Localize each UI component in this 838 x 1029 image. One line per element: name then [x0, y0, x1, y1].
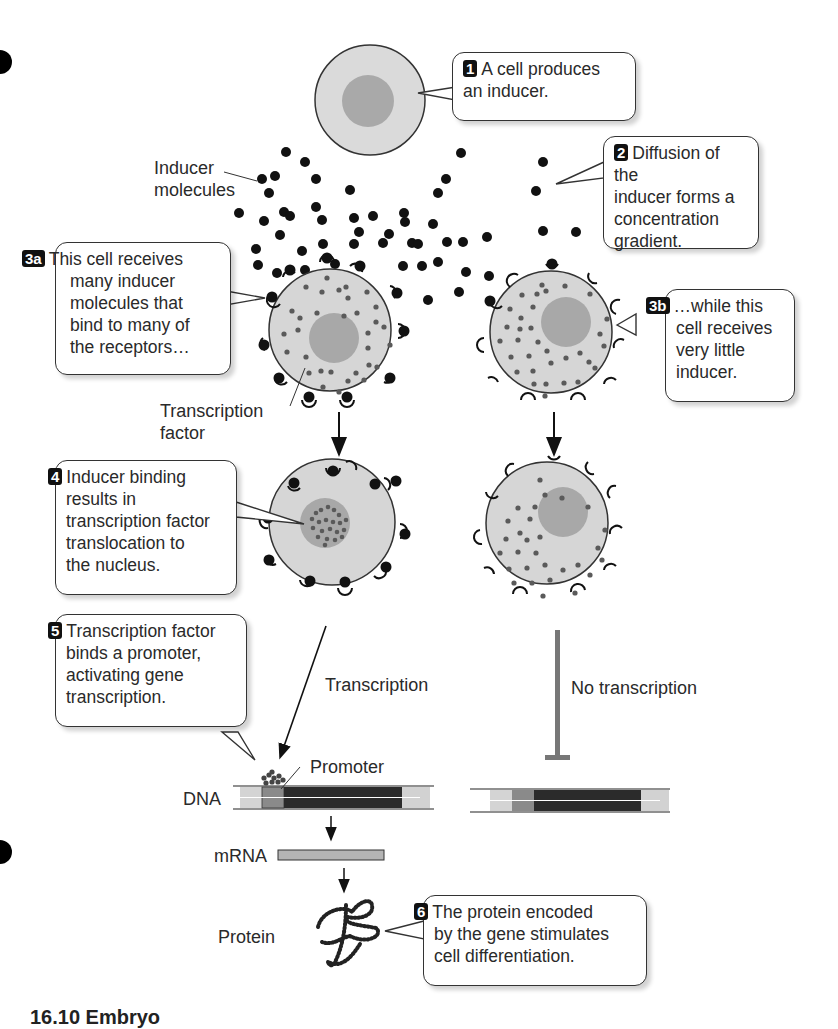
callout-step-2: 2Diffusion of the inducer forms a concen…: [603, 136, 759, 249]
cell-4-right: [474, 456, 622, 599]
step-badge-6: 6: [414, 903, 428, 920]
step-badge-3b: 3b: [646, 297, 670, 314]
label-inducer-molecules: Inducer molecules: [154, 157, 235, 201]
step-badge-5: 5: [48, 622, 62, 639]
figure-caption-cutoff: 16.10 Embryo: [30, 1006, 160, 1029]
cell-4: [260, 459, 411, 595]
label-dna: DNA: [183, 788, 221, 810]
step-badge-2: 2: [614, 144, 628, 161]
cell-3b: [477, 259, 624, 401]
callout-step-3a: 3aThis cell receives many inducer molecu…: [55, 242, 231, 375]
bound-transcription-factors: [261, 769, 285, 785]
binder-hole-top: [0, 50, 12, 74]
callout-step-5: 5Transcription factor binds a promoter, …: [55, 614, 247, 727]
callout-step-3b: 3b…while this cell receives very little …: [665, 289, 795, 402]
producing-cell: [315, 45, 425, 155]
label-no-transcription: No transcription: [571, 677, 697, 699]
label-mrna: mRNA: [214, 845, 267, 867]
callout-step-4: 4Inducer binding results in transcriptio…: [55, 460, 237, 595]
mrna-bar: [278, 850, 384, 860]
transcription-arrow: [282, 626, 326, 752]
label-protein: Protein: [218, 926, 275, 948]
step-badge-3a: 3a: [22, 250, 45, 267]
callout-step-1: 1A cell produces an inducer.: [452, 52, 636, 121]
callout-step-6: 6The protein encoded by the gene stimula…: [423, 895, 647, 986]
label-transcription-factor: Transcription factor: [160, 400, 263, 444]
binder-hole-bottom: [0, 840, 12, 864]
dna-inactive: [470, 789, 670, 812]
label-transcription: Transcription: [325, 674, 428, 696]
protein-chain: [318, 901, 378, 965]
no-transcription-inhibitor: [545, 630, 570, 760]
step-badge-1: 1: [463, 60, 477, 77]
label-promoter: Promoter: [310, 756, 384, 778]
step-badge-4: 4: [48, 468, 62, 485]
